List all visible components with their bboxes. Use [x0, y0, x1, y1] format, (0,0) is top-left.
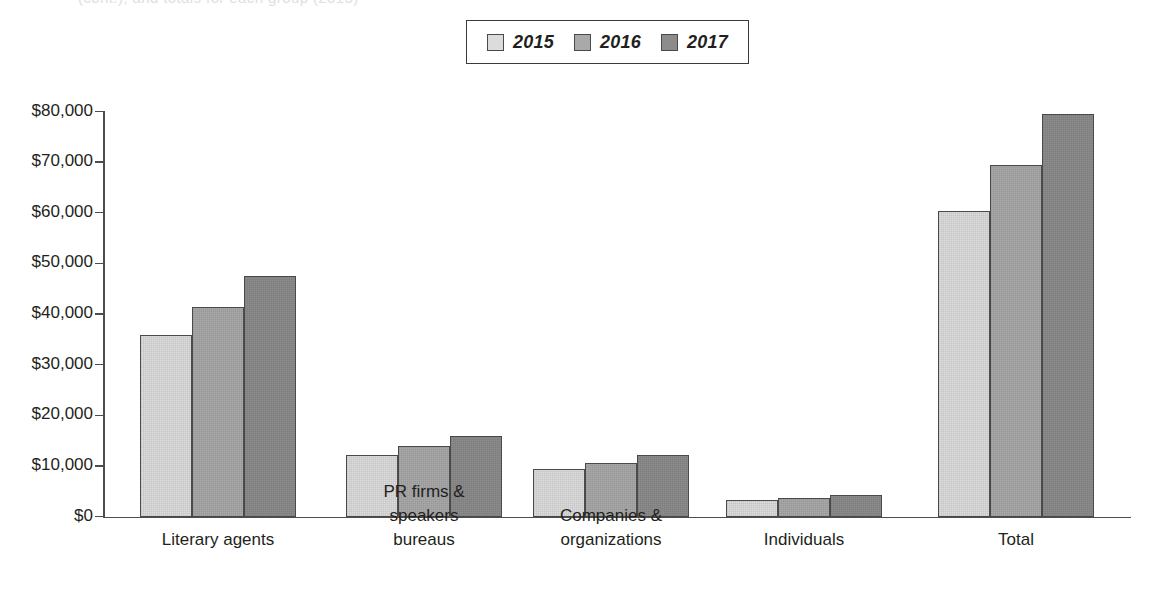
y-axis-tick-label: $0	[5, 506, 93, 526]
y-axis-tick-label: $50,000	[5, 252, 93, 272]
y-axis-tick-label: $20,000	[5, 404, 93, 424]
bar-2017[interactable]	[830, 495, 882, 517]
bar-2015[interactable]	[938, 211, 990, 517]
category-label: Individuals	[686, 528, 922, 552]
y-axis-tick-mark	[95, 263, 104, 264]
y-axis-tick-label: $80,000	[5, 101, 93, 121]
y-axis-tick-label: $30,000	[5, 354, 93, 374]
bar-chart-plot-area: $80,000$70,000$60,000$50,000$40,000$30,0…	[0, 0, 1157, 614]
bar-2016[interactable]	[778, 498, 830, 517]
y-axis-tick-mark	[95, 212, 104, 213]
bar-group	[726, 495, 882, 517]
bar-2016[interactable]	[990, 165, 1042, 517]
y-axis-tick-mark	[95, 111, 104, 112]
category-label: Literary agents	[100, 528, 336, 552]
bar-group	[938, 114, 1094, 517]
bar-group	[140, 276, 296, 517]
y-axis-tick-label: $10,000	[5, 455, 93, 475]
y-axis-tick-mark	[95, 313, 104, 314]
bar-2017[interactable]	[244, 276, 296, 517]
y-axis-tick-mark	[95, 415, 104, 416]
bar-2015[interactable]	[726, 500, 778, 517]
y-axis-tick-mark	[95, 161, 104, 162]
bar-2016[interactable]	[192, 307, 244, 517]
bar-2015[interactable]	[140, 335, 192, 517]
y-axis-tick-mark	[95, 516, 104, 517]
category-label: Total	[898, 528, 1134, 552]
y-axis-tick-mark	[95, 465, 104, 466]
y-axis-tick-label: $40,000	[5, 303, 93, 323]
y-axis-tick-label: $60,000	[5, 202, 93, 222]
y-axis-tick-mark	[95, 364, 104, 365]
y-axis-tick-label: $70,000	[5, 151, 93, 171]
bar-2017[interactable]	[1042, 114, 1094, 517]
